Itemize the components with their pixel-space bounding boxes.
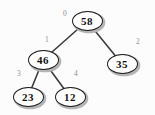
node-value-46: 46 (37, 55, 49, 66)
node-value-23: 23 (22, 92, 34, 103)
tree-node-58: 58 (72, 11, 103, 31)
node-value-12: 12 (64, 92, 76, 103)
node-index-label-0: 0 (63, 10, 67, 18)
tree-node-46: 46 (28, 50, 59, 70)
node-value-58: 58 (81, 16, 93, 27)
tree-node-23: 23 (13, 87, 44, 107)
node-index-label-3: 3 (17, 70, 21, 78)
node-index-label-2: 2 (136, 38, 140, 46)
node-index-label-4: 4 (74, 70, 78, 78)
binary-tree-diagram: 0 1 2 3 4 58 46 35 23 12 (0, 0, 155, 115)
node-index-label-1: 1 (45, 36, 49, 44)
node-value-35: 35 (116, 59, 128, 70)
tree-node-35: 35 (107, 54, 138, 74)
tree-node-12: 12 (55, 87, 86, 107)
